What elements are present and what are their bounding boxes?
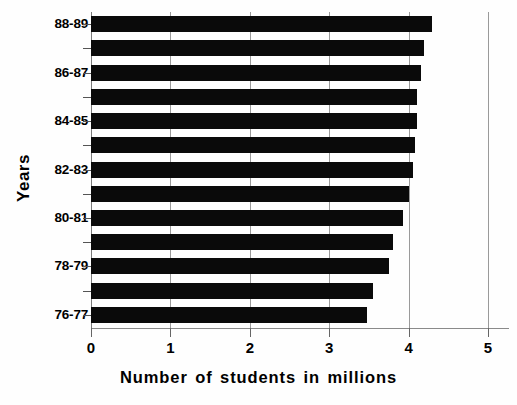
- bar: [91, 210, 403, 226]
- bar: [91, 89, 417, 105]
- bar: [91, 307, 367, 323]
- x-axis-tick-mark: [170, 328, 171, 337]
- y-axis-tick-mark: [83, 73, 91, 74]
- y-axis-tick-label: 88-89: [30, 18, 88, 30]
- y-axis-tick-mark: [83, 24, 91, 25]
- bar: [91, 113, 417, 129]
- bar: [91, 283, 373, 299]
- y-axis-tick-mark: [83, 121, 91, 122]
- y-axis-tick-label: 84-85: [30, 115, 88, 127]
- bar: [91, 162, 413, 178]
- bar: [91, 234, 393, 250]
- bar: [91, 16, 432, 32]
- y-axis-tick-mark: [83, 194, 91, 195]
- x-axis: 012345: [0, 328, 517, 368]
- x-axis-title: Number of students in millions: [0, 368, 517, 387]
- y-axis-tick-mark: [83, 48, 91, 49]
- y-axis-tick-mark: [83, 291, 91, 292]
- y-axis-tick-mark: [83, 266, 91, 267]
- x-axis-tick-mark: [488, 328, 489, 337]
- y-axis-tick-label: 86-87: [30, 67, 88, 79]
- y-axis-tick-label: 80-81: [30, 212, 88, 224]
- gridline-x-5: [488, 12, 489, 328]
- y-axis-tick-mark: [83, 315, 91, 316]
- bar: [91, 137, 415, 153]
- x-axis-tick-mark: [91, 328, 92, 337]
- plot-area: [91, 12, 488, 327]
- y-axis-tick-labels: 88-8986-8784-8582-8380-8178-7976-77: [30, 12, 88, 327]
- y-axis-tick-mark: [83, 170, 91, 171]
- y-axis-tick-label: 82-83: [30, 164, 88, 176]
- x-axis-tick-mark: [250, 328, 251, 337]
- bar: [91, 186, 409, 202]
- bar-chart: Years 88-8986-8784-8582-8380-8178-7976-7…: [0, 0, 517, 405]
- y-axis-tick-label: 78-79: [30, 260, 88, 272]
- x-axis-tick-label: 3: [317, 339, 341, 356]
- bar: [91, 258, 389, 274]
- y-axis-tick-label: 76-77: [30, 309, 88, 321]
- bar: [91, 65, 421, 81]
- x-axis-tick-label: 2: [238, 339, 262, 356]
- x-axis-tick-mark: [329, 328, 330, 337]
- bar: [91, 40, 424, 56]
- x-axis-tick-label: 5: [476, 339, 500, 356]
- x-axis-tick-mark: [409, 328, 410, 337]
- y-axis-tick-mark: [83, 242, 91, 243]
- y-axis-tick-mark: [83, 218, 91, 219]
- x-axis-tick-label: 1: [158, 339, 182, 356]
- x-axis-tick-label: 4: [397, 339, 421, 356]
- y-axis-tick-mark: [83, 145, 91, 146]
- y-axis-tick-mark: [83, 97, 91, 98]
- x-axis-tick-label: 0: [79, 339, 103, 356]
